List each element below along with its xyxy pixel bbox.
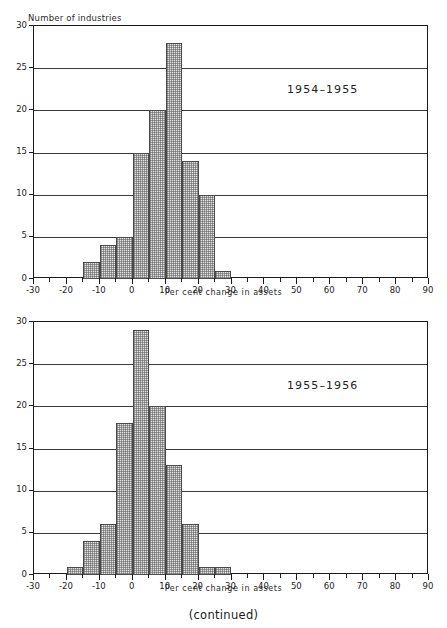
x-tick-mark-60: [329, 278, 330, 284]
histogram-bar: [215, 567, 231, 575]
plot-area-1955-1956: [33, 321, 428, 574]
gridline-y-15: [34, 153, 427, 154]
x-tick-label: -30: [18, 581, 48, 591]
x-tick-label: 70: [347, 581, 377, 591]
gridline-y-5: [34, 237, 427, 238]
gridline-y-25: [34, 68, 427, 69]
histogram-bar: [199, 567, 215, 575]
y-tick-mark-20: [29, 109, 33, 110]
histogram-bar: [133, 330, 149, 575]
histogram-bar: [116, 423, 132, 575]
y-tick-mark-25: [29, 67, 33, 68]
x-tick-mark-0: [132, 574, 133, 580]
histogram-bar: [133, 153, 149, 280]
x-tick-label: 0: [117, 285, 147, 295]
x-tick-label: 40: [248, 285, 278, 295]
histogram-bar: [215, 271, 231, 279]
histogram-bar: [116, 237, 132, 279]
x-tick-label: 50: [281, 581, 311, 591]
x-tick-label: 20: [183, 581, 213, 591]
x-tick-mark-35: [247, 574, 248, 578]
x-tick-mark-20: [198, 574, 199, 580]
x-tick-mark-40: [263, 278, 264, 284]
x-tick-mark-65: [346, 278, 347, 282]
gridline-y-10: [34, 491, 427, 492]
continued-note: (continued): [0, 608, 447, 622]
x-tick-label: 50: [281, 285, 311, 295]
histogram-bar: [100, 245, 116, 279]
x-tick-label: -20: [51, 581, 81, 591]
x-tick-label: -30: [18, 285, 48, 295]
x-tick-mark-40: [263, 574, 264, 580]
x-tick-mark-5: [148, 574, 149, 578]
x-tick-mark-90: [428, 278, 429, 284]
x-tick-label: 40: [248, 581, 278, 591]
y-tick-mark-5: [29, 532, 33, 533]
histogram-bar: [67, 567, 83, 575]
gridline-y-20: [34, 110, 427, 111]
x-tick-label: 10: [150, 285, 180, 295]
y-tick-label: 0: [0, 273, 27, 283]
x-tick-label: 60: [314, 285, 344, 295]
x-tick-mark-80: [395, 574, 396, 580]
y-tick-mark-10: [29, 194, 33, 195]
x-tick-label: 30: [216, 581, 246, 591]
y-tick-mark-30: [29, 321, 33, 322]
gridline-y-5: [34, 533, 427, 534]
x-tick-mark-85: [412, 278, 413, 282]
histogram-figure: Number of industries 1954–1955 Per cent …: [0, 0, 447, 628]
x-tick-label: 30: [216, 285, 246, 295]
x-tick-mark-50: [296, 278, 297, 284]
y-axis-title: Number of industries: [28, 13, 122, 23]
y-tick-mark-5: [29, 236, 33, 237]
x-tick-mark--20: [66, 574, 67, 580]
x-tick-mark--5: [115, 574, 116, 578]
x-tick-mark-85: [412, 574, 413, 578]
histogram-bar: [166, 465, 182, 575]
gridline-y-25: [34, 364, 427, 365]
histogram-bar: [199, 195, 215, 279]
gridline-y-15: [34, 449, 427, 450]
x-tick-label: 80: [380, 581, 410, 591]
y-tick-label: 25: [0, 62, 27, 72]
y-tick-mark-20: [29, 405, 33, 406]
y-tick-label: 5: [0, 230, 27, 240]
x-tick-mark-55: [313, 574, 314, 578]
y-tick-mark-10: [29, 490, 33, 491]
x-tick-mark-45: [280, 278, 281, 282]
chart-panel-1955-1956: 1955–1956 Per cent change in assets 0510…: [0, 296, 447, 596]
y-tick-label: 0: [0, 569, 27, 579]
x-tick-label: 70: [347, 285, 377, 295]
x-tick-mark-15: [181, 278, 182, 282]
x-tick-mark-0: [132, 278, 133, 284]
y-tick-label: 10: [0, 188, 27, 198]
x-tick-mark-10: [165, 278, 166, 284]
y-tick-label: 20: [0, 400, 27, 410]
x-tick-mark-35: [247, 278, 248, 282]
x-tick-mark--5: [115, 278, 116, 282]
gridline-y-20: [34, 406, 427, 407]
histogram-bar: [149, 406, 165, 575]
y-tick-label: 30: [0, 316, 27, 326]
y-tick-label: 20: [0, 104, 27, 114]
plot-area-1954-1955: [33, 25, 428, 278]
x-tick-label: 0: [117, 581, 147, 591]
x-tick-label: -10: [84, 581, 114, 591]
histogram-bar: [149, 110, 165, 279]
histogram-bar: [83, 541, 99, 575]
x-tick-mark-80: [395, 278, 396, 284]
y-tick-mark-30: [29, 25, 33, 26]
x-tick-mark-25: [214, 574, 215, 578]
histogram-bar: [166, 43, 182, 279]
x-tick-mark-65: [346, 574, 347, 578]
x-tick-label: 90: [413, 285, 443, 295]
histogram-bar: [100, 524, 116, 575]
x-tick-mark-60: [329, 574, 330, 580]
x-tick-mark--30: [33, 574, 34, 580]
y-tick-label: 15: [0, 146, 27, 156]
y-tick-label: 5: [0, 526, 27, 536]
x-tick-mark--25: [49, 278, 50, 282]
histogram-bar: [182, 524, 198, 575]
x-tick-mark-50: [296, 574, 297, 580]
x-tick-label: -20: [51, 285, 81, 295]
